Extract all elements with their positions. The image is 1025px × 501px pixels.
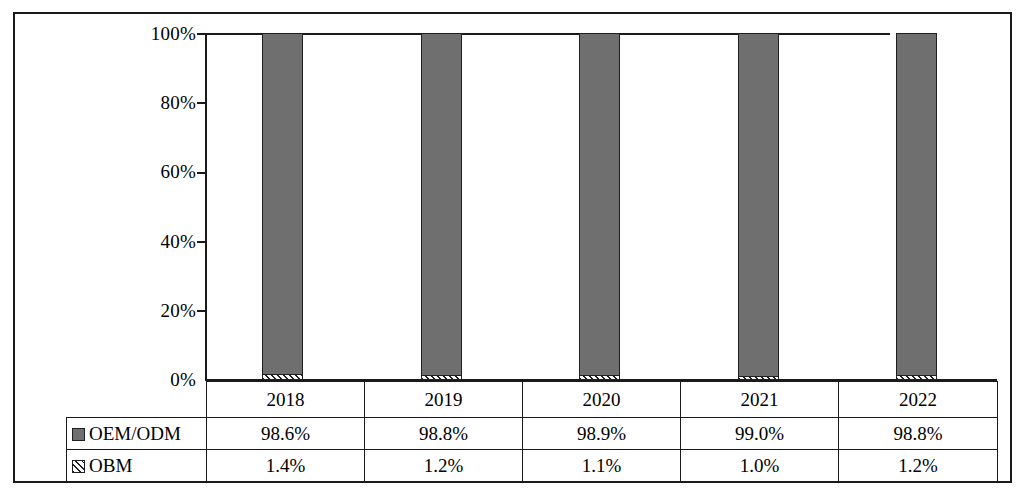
table-year-2022: 2022 — [839, 382, 998, 418]
table-row-oem-odm: OEM/ODM 98.6% 98.8% 98.9% 99.0% 98.8% — [67, 418, 998, 450]
table-value-obm-2022: 1.2% — [839, 450, 998, 482]
legend-swatch-oem-icon — [72, 428, 85, 441]
bar-segment-obm-2020 — [579, 375, 620, 380]
table-year-2019: 2019 — [365, 382, 523, 418]
table-value-oem-2022: 98.8% — [839, 418, 998, 450]
y-tick-label-40: 40% — [76, 232, 196, 251]
legend-swatch-obm-icon — [72, 460, 85, 473]
y-tick-label-100: 100% — [76, 24, 196, 43]
table-year-2020: 2020 — [523, 382, 681, 418]
bar-segment-obm-2018 — [262, 374, 303, 380]
bar-segment-oem-2022 — [896, 33, 937, 376]
y-tick-label-20: 20% — [76, 301, 196, 320]
table-value-obm-2021: 1.0% — [681, 450, 839, 482]
y-axis-tick-labels: 100% 80% 60% 40% 20% 0% — [72, 0, 196, 400]
bar-segment-oem-2020 — [579, 33, 620, 376]
chart-data-table: 2018 2019 2020 2021 2022 OEM/ODM 98.6% 9… — [66, 381, 998, 482]
plot-area — [206, 33, 997, 380]
bar-segment-obm-2019 — [421, 375, 462, 380]
bar-segment-obm-2022 — [896, 375, 937, 380]
legend-label-oem-odm: OEM/ODM — [89, 423, 181, 444]
legend-cell-oem-odm: OEM/ODM — [67, 418, 207, 450]
table-row-obm: OBM 1.4% 1.2% 1.1% 1.0% 1.2% — [67, 450, 998, 482]
table-value-obm-2018: 1.4% — [207, 450, 365, 482]
table-corner-cell — [67, 382, 207, 418]
table-year-2021: 2021 — [681, 382, 839, 418]
y-tick-label-60: 60% — [76, 162, 196, 181]
table-year-2018: 2018 — [207, 382, 365, 418]
table-value-obm-2020: 1.1% — [523, 450, 681, 482]
bar-segment-oem-2021 — [738, 33, 779, 377]
legend-label-obm: OBM — [89, 455, 132, 476]
table-value-oem-2020: 98.9% — [523, 418, 681, 450]
bar-segment-obm-2021 — [738, 376, 779, 380]
table-value-oem-2018: 98.6% — [207, 418, 365, 450]
bar-segment-oem-2018 — [262, 33, 303, 375]
stacked-bar-chart-figure: 100% 80% 60% 40% 20% 0% — [0, 0, 1025, 501]
y-tick-label-80: 80% — [76, 93, 196, 112]
bar-segment-oem-2019 — [421, 33, 462, 376]
table-row-years: 2018 2019 2020 2021 2022 — [67, 382, 998, 418]
table-value-obm-2019: 1.2% — [365, 450, 523, 482]
legend-cell-obm: OBM — [67, 450, 207, 482]
table-value-oem-2021: 99.0% — [681, 418, 839, 450]
table-value-oem-2019: 98.8% — [365, 418, 523, 450]
